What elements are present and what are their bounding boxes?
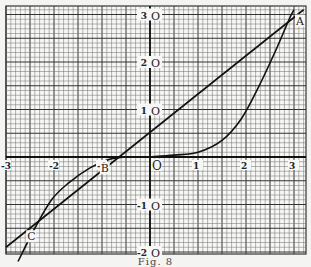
- origin-label: O: [152, 159, 162, 173]
- y-tick-suffix: O: [151, 10, 160, 23]
- y-tick-suffix: O: [151, 105, 160, 118]
- x-tick-label: -2: [49, 161, 59, 171]
- x-tick-label: -3: [1, 161, 11, 171]
- figure-caption: Fig. 8: [0, 256, 311, 267]
- point-label-B: B: [101, 162, 109, 175]
- x-tick-label: 3: [289, 161, 295, 171]
- point-label-C: C: [27, 230, 35, 243]
- y-tick-label: 2: [141, 58, 147, 68]
- point-label-A: A: [295, 15, 305, 28]
- y-tick-suffix: O: [151, 57, 160, 70]
- y-tick-suffix: O: [151, 200, 160, 213]
- y-tick-label: 3: [141, 11, 147, 21]
- x-tick-label: 2: [241, 161, 247, 171]
- y-tick-label: 1: [141, 106, 147, 116]
- y-tick-label: -1: [137, 201, 147, 211]
- x-tick-label: 1: [193, 161, 199, 171]
